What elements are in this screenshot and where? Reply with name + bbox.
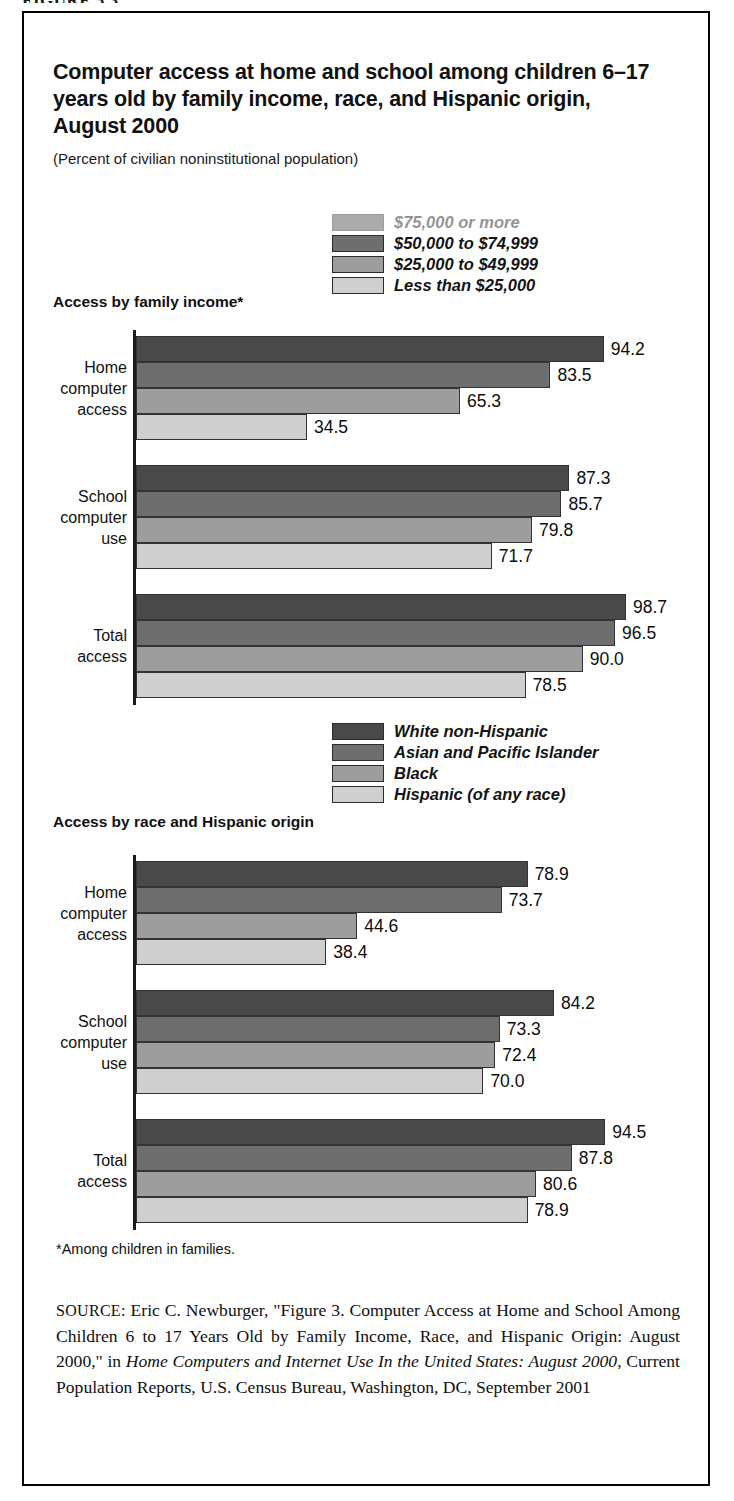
bar-value-label: 65.3 [467,388,501,414]
legend-race-origin: White non-HispanicAsian and Pacific Isla… [332,721,599,805]
bar-group: 87.385.779.871.7 [136,465,696,569]
category-label-line: School [27,1011,127,1032]
section-label-race-origin: Access by race and Hispanic origin [53,813,314,831]
bar-value-label: 87.8 [579,1145,613,1171]
bar-value-label: 38.4 [333,939,367,965]
bar [136,1016,500,1042]
bar-value-label: 73.7 [509,887,543,913]
legend-family-income: $75,000 or more$50,000 to $74,999$25,000… [332,212,538,296]
bar [136,861,528,887]
bar [136,620,616,646]
figure-number: FIGURE 5.3 [22,0,119,3]
bar-value-label: 44.6 [364,913,398,939]
bar [136,388,461,414]
category-label: Schoolcomputeruse [27,1011,127,1074]
legend-item: White non-Hispanic [332,721,599,742]
legend-item-label: Asian and Pacific Islander [394,743,599,762]
page-title: Computer access at home and school among… [53,59,653,140]
bar-value-label: 94.5 [612,1119,646,1145]
legend-swatch-icon [332,235,384,252]
bar-value-label: 85.7 [568,491,602,517]
legend-item-label: Hispanic (of any race) [394,785,565,804]
bar-value-label: 84.2 [561,990,595,1016]
legend-item-label: Less than $25,000 [394,276,535,295]
bar-value-label: 98.7 [633,594,667,620]
legend-item: $25,000 to $49,999 [332,254,538,275]
legend-item: $75,000 or more [332,212,538,233]
bar [136,1145,572,1171]
category-label: Totalaccess [27,625,127,667]
category-label-line: Total [27,1150,127,1171]
legend-item: Hispanic (of any race) [332,784,599,805]
legend-swatch-icon [332,256,384,273]
bar [136,990,554,1016]
bar-value-label: 72.4 [502,1042,536,1068]
bar-value-label: 83.5 [557,362,591,388]
bar-value-label: 80.6 [543,1171,577,1197]
bar-value-label: 94.2 [611,336,645,362]
category-label-line: use [27,1053,127,1074]
category-label-line: computer [27,378,127,399]
bar [136,1197,528,1223]
bar [136,887,502,913]
legend-swatch-icon [332,723,384,740]
bar [136,672,526,698]
bar-group: 84.273.372.470.0 [136,990,696,1094]
bar-value-label: 34.5 [314,414,348,440]
legend-item-label: $50,000 to $74,999 [394,234,538,253]
bar-group: 94.283.565.334.5 [136,336,696,440]
source-note: SOURCE: Eric C. Newburger, "Figure 3. Co… [56,1298,680,1400]
bar-value-label: 73.3 [507,1016,541,1042]
legend-item: Less than $25,000 [332,275,538,296]
category-label-line: access [27,646,127,667]
bar [136,1119,606,1145]
bar [136,465,570,491]
bar [136,517,533,543]
category-label: Schoolcomputeruse [27,486,127,549]
bar-value-label: 79.8 [539,517,573,543]
category-label-line: Home [27,357,127,378]
legend-swatch-icon [332,765,384,782]
source-publication-title: Home Computers and Internet Use In the U… [126,1351,617,1371]
bar-value-label: 78.9 [535,861,569,887]
bar-value-label: 96.5 [622,620,656,646]
category-label-line: use [27,528,127,549]
footnote: *Among children in families. [56,1241,235,1257]
category-label-line: access [27,924,127,945]
legend-item-label: $25,000 to $49,999 [394,255,538,274]
category-label-line: School [27,486,127,507]
legend-swatch-icon [332,277,384,294]
legend-item: Asian and Pacific Islander [332,742,599,763]
bar [136,939,327,965]
bar [136,336,604,362]
bar-value-label: 70.0 [490,1068,524,1094]
category-label-line: Home [27,882,127,903]
bar-value-label: 71.7 [499,543,533,569]
category-label-line: computer [27,1032,127,1053]
bar [136,491,562,517]
section-label-family-income: Access by family income* [53,293,243,311]
bar [136,362,551,388]
bar [136,594,627,620]
bar [136,913,358,939]
legend-item-label: Black [394,764,438,783]
legend-swatch-icon [332,214,384,231]
bar-value-label: 78.9 [535,1197,569,1223]
bar [136,1068,484,1094]
category-label: Totalaccess [27,1150,127,1192]
bar [136,1042,496,1068]
category-label-line: access [27,399,127,420]
category-label: Homecomputeraccess [27,882,127,945]
category-label-line: computer [27,903,127,924]
legend-item-label: White non-Hispanic [394,722,548,741]
subtitle: (Percent of civilian noninstitutional po… [53,150,358,167]
legend-item: $50,000 to $74,999 [332,233,538,254]
bar-group: 98.796.590.078.5 [136,594,696,698]
bar-group: 94.587.880.678.9 [136,1119,696,1223]
bar [136,1171,537,1197]
category-label: Homecomputeraccess [27,357,127,420]
legend-item: Black [332,763,599,784]
category-label-line: computer [27,507,127,528]
legend-swatch-icon [332,744,384,761]
figure-panel: Computer access at home and school among… [22,11,710,1486]
